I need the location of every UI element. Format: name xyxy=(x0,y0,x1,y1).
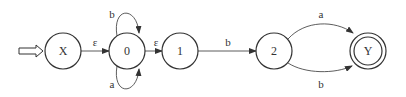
state-0-label: 0 xyxy=(124,44,130,58)
state-2-label: 2 xyxy=(271,44,277,58)
state-x: X xyxy=(45,33,81,69)
state-x-label: X xyxy=(59,44,68,58)
state-2: 2 xyxy=(256,33,292,69)
state-1: 1 xyxy=(162,33,198,69)
automaton-diagram: X ε 0 b a ε 1 b 2 a xyxy=(0,0,406,97)
edge-x-0-label: ε xyxy=(93,36,98,48)
edge-0-0-b: b xyxy=(109,8,139,36)
edge-2-y-a-label: a xyxy=(319,8,324,20)
edge-0-0-a: a xyxy=(110,66,139,90)
edge-x-0: ε xyxy=(81,36,109,51)
edge-0-0-b-label: b xyxy=(109,8,115,20)
edge-0-1: ε xyxy=(145,36,162,51)
edge-1-2: b xyxy=(198,36,256,51)
state-1-label: 1 xyxy=(177,44,183,58)
state-0: 0 xyxy=(109,33,145,69)
edge-2-y-b-label: b xyxy=(318,78,324,90)
edge-0-0-a-label: a xyxy=(110,78,115,90)
state-y-label: Y xyxy=(364,44,373,58)
state-y-accepting: Y xyxy=(350,33,386,69)
edge-0-1-label: ε xyxy=(154,36,159,48)
edge-2-y-a: a xyxy=(288,8,353,39)
edge-2-y-b: b xyxy=(288,63,352,90)
edge-1-2-label: b xyxy=(225,36,231,48)
start-arrow-icon xyxy=(19,45,43,57)
